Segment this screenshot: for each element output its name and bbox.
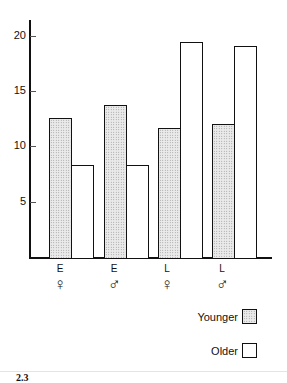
x-label-group: L (157, 263, 177, 274)
figure-label: 2.3 (16, 372, 29, 383)
bar-older-2 (180, 42, 203, 258)
male-symbol-icon: ♂ (212, 276, 232, 293)
divider (0, 371, 287, 372)
bar-younger-3 (212, 124, 235, 258)
x-label-group: E (104, 263, 124, 274)
y-tick-10 (30, 146, 36, 147)
x-label-group: L (212, 263, 232, 274)
female-symbol-icon: ♀ (50, 276, 70, 293)
y-tick-15 (30, 91, 36, 92)
bar-older-1 (126, 165, 149, 258)
female-symbol-icon: ♀ (157, 276, 177, 293)
y-tick-label: 15 (4, 84, 26, 96)
bar-older-0 (71, 165, 94, 258)
legend-swatch-younger (242, 309, 257, 324)
male-symbol-icon: ♂ (104, 276, 124, 293)
bar-older-3 (234, 46, 257, 258)
bar-younger-1 (104, 105, 127, 258)
legend-label-older: Older (178, 345, 238, 357)
y-tick-label: 5 (4, 195, 26, 207)
y-tick-label: 20 (4, 29, 26, 41)
y-tick-label: 10 (4, 139, 26, 151)
bar-younger-2 (158, 128, 181, 258)
legend-label-younger: Younger (178, 311, 238, 323)
x-label-group: E (50, 263, 70, 274)
bar-younger-0 (49, 118, 72, 258)
legend-swatch-older (242, 343, 257, 358)
y-tick-20 (30, 36, 36, 37)
y-axis (29, 20, 31, 258)
y-tick-5 (30, 202, 36, 203)
